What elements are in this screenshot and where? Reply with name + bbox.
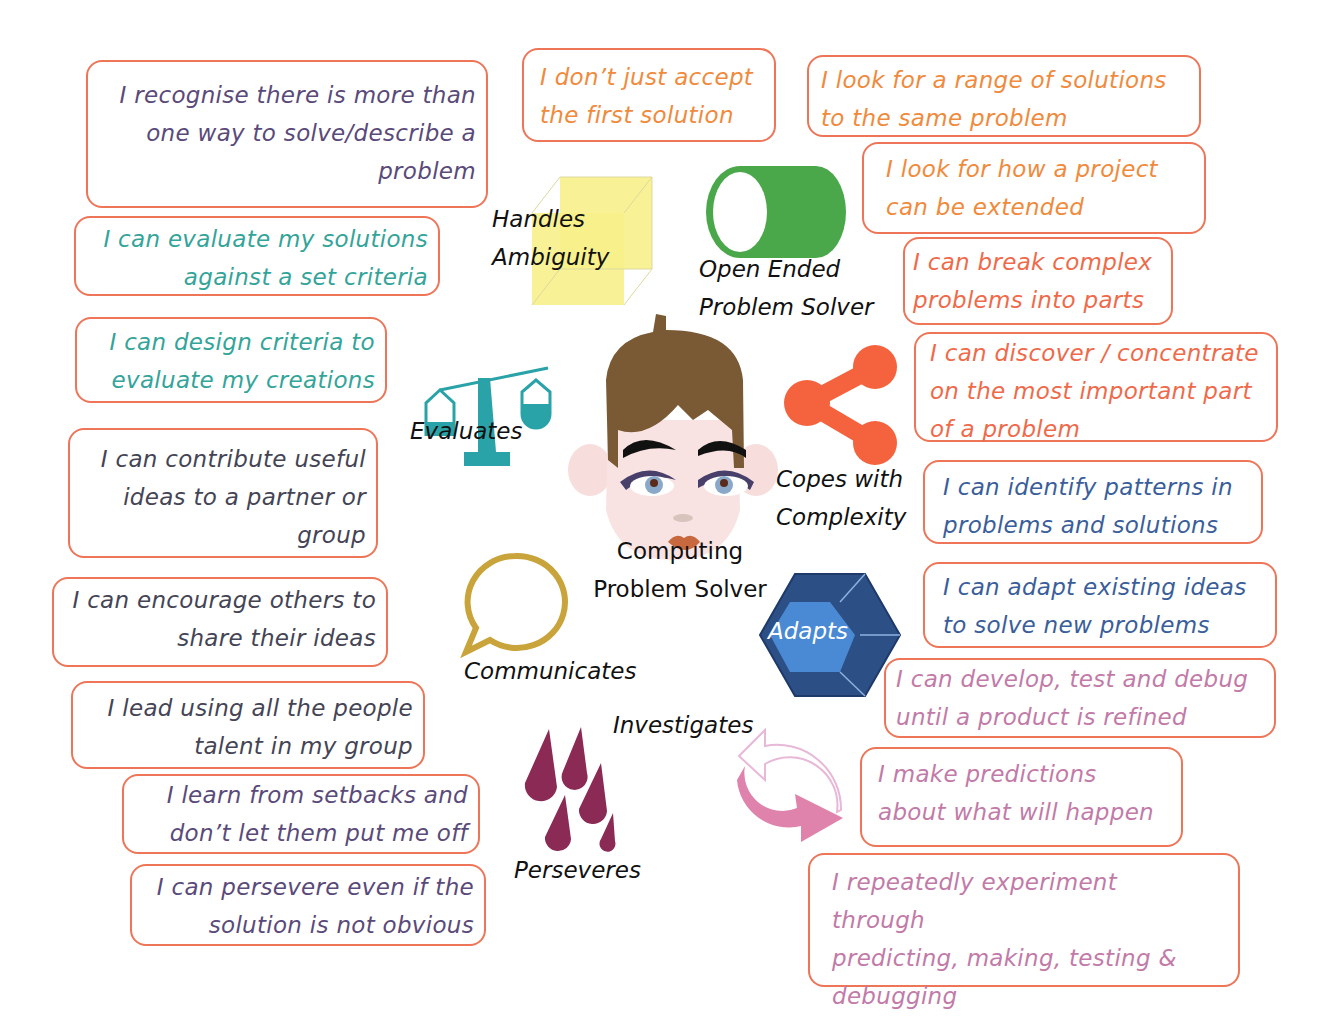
raindrops-icon [515,725,620,855]
statement-lead: I lead using all the people talent in my… [71,681,425,769]
statement-dont-accept: I don’t just accept the first solution [522,48,776,142]
statement-evaluate-solutions: I can evaluate my solutions against a se… [74,216,440,296]
statement-predictions: I make predictions about what will happe… [860,747,1183,847]
face-avatar-icon [568,310,778,560]
trait-handles-ambiguity: Handles Ambiguity [492,200,609,276]
statement-develop-test: I can develop, test and debug until a pr… [884,658,1276,738]
trait-perseveres: Perseveres [514,851,641,889]
trait-adapts: Adapts [768,612,848,650]
trait-communicates: Communicates [464,652,636,690]
trait-evaluates: Evaluates [410,412,522,450]
statement-persevere: I can persevere even if the solution is … [130,864,486,946]
statement-recognise: I recognise there is more than one way t… [86,60,488,208]
statement-contribute: I can contribute useful ideas to a partn… [68,428,378,558]
cylinder-icon [704,164,848,260]
statement-discover-concentrate: I can discover / concentrate on the most… [914,332,1278,442]
statement-learn-setbacks: I learn from setbacks and don’t let them… [122,774,480,854]
statement-encourage: I can encourage others to share their id… [52,577,388,667]
center-title: Computing Problem Solver [580,532,780,608]
trait-investigates: Investigates [613,706,753,744]
trait-copes-complexity: Copes with Complexity [776,460,906,536]
share-network-icon [783,345,903,467]
statement-design-criteria: I can design criteria to evaluate my cre… [75,317,387,403]
statement-adapt-ideas: I can adapt existing ideas to solve new … [923,562,1277,648]
statement-range-solutions: I look for a range of solutions to the s… [807,55,1201,137]
speech-bubble-icon [460,550,570,660]
statement-identify-patterns: I can identify patterns in problems and … [923,460,1263,544]
statement-experiment: I repeatedly experiment through predicti… [808,853,1240,987]
statement-break-complex: I can break complex problems into parts [903,237,1173,325]
statement-project-extended: I look for how a project can be extended [862,142,1206,234]
